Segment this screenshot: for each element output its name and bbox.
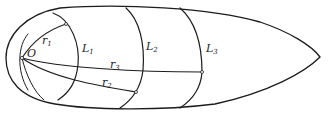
origin-point <box>20 56 23 59</box>
label-r3: r3 <box>110 58 120 72</box>
arc-L2 <box>120 8 143 108</box>
label-r1: r1 <box>42 34 52 48</box>
label-L3: L3 <box>205 42 218 56</box>
crescent-curve <box>20 34 28 90</box>
arc-L1 <box>53 13 78 100</box>
label-L2: L2 <box>145 40 158 54</box>
point-r2-end <box>135 91 138 94</box>
body-outline <box>6 6 320 109</box>
point-r1-end <box>65 23 68 26</box>
arc-L3 <box>180 8 202 108</box>
body-diagram: O r1 L1 L2 L3 r3 r2 <box>0 0 330 115</box>
label-r2: r2 <box>102 76 112 90</box>
point-r3-end <box>201 71 204 74</box>
label-L1: L1 <box>81 42 94 56</box>
label-origin: O <box>27 47 36 60</box>
